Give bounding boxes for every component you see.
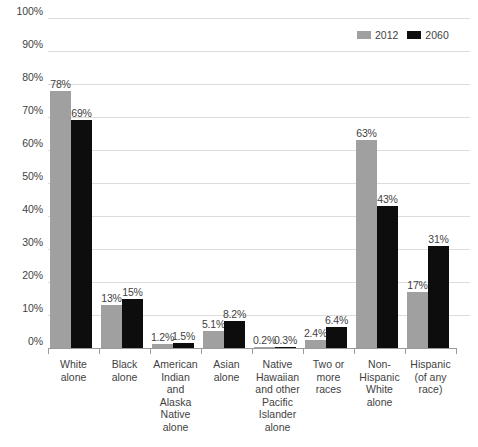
bar-value-label: 6.4% [320, 314, 354, 326]
bar-group: 17%31% [405, 18, 456, 348]
y-axis-tick-label: 10% [0, 302, 43, 314]
bar-2012 [254, 347, 275, 348]
x-axis-tick [201, 348, 202, 354]
y-axis-tick-label: 100% [0, 5, 43, 17]
bar-2012 [305, 340, 326, 348]
x-axis-category-label: Two or more races [303, 358, 354, 396]
bar-2060 [122, 299, 143, 349]
bar-group: 1.2%1.5% [150, 18, 201, 348]
x-axis-category-label: Asian alone [201, 358, 252, 383]
bar-value-label: 69% [65, 107, 99, 119]
bar-group: 63%43% [354, 18, 405, 348]
bar-value-label: 43% [371, 193, 405, 205]
bar-2012 [356, 140, 377, 348]
bar-2012 [407, 292, 428, 348]
bar-value-label: 8.2% [218, 308, 252, 320]
bar-2060 [173, 343, 194, 348]
bar-2012 [152, 344, 173, 348]
bar-group: 2.4%6.4% [303, 18, 354, 348]
x-axis-category-label: American Indian and Alaska Native alone [150, 358, 201, 434]
x-axis-category-label: White alone [48, 358, 99, 383]
y-axis-tick-label: 40% [0, 203, 43, 215]
legend-swatch-2012 [357, 31, 371, 39]
bar-value-label: 63% [350, 127, 384, 139]
x-axis-tick [252, 348, 253, 354]
bar-group: 78%69% [48, 18, 99, 348]
bar-2012 [50, 91, 71, 348]
y-axis-tick-label: 90% [0, 38, 43, 50]
bar-2012 [101, 305, 122, 348]
bar-group: 13%15% [99, 18, 150, 348]
x-axis-category-label: Hispanic (of any race) [405, 358, 456, 396]
legend-label-2012: 2012 [375, 29, 398, 41]
bar-chart: 0%10%20%30%40%50%60%70%80%90%100% 78%69%… [0, 0, 478, 447]
bar-2012 [203, 331, 224, 348]
bar-groups: 78%69%13%15%1.2%1.5%5.1%8.2%0.2%0.3%2.4%… [48, 18, 456, 348]
y-axis-tick-label: 20% [0, 269, 43, 281]
legend-item-2012: 2012 [357, 29, 398, 41]
x-axis-tick [405, 348, 406, 354]
y-axis-tick-label: 60% [0, 137, 43, 149]
x-axis-tick [150, 348, 151, 354]
bar-2060 [275, 347, 296, 348]
x-axis-category-label: Native Hawaiian and other Pacific Island… [252, 358, 303, 434]
bar-2060 [377, 206, 398, 348]
x-axis-tick [456, 348, 457, 354]
bar-value-label: 31% [422, 233, 456, 245]
bar-2060 [326, 327, 347, 348]
bar-2060 [224, 321, 245, 348]
bar-group: 0.2%0.3% [252, 18, 303, 348]
y-axis-tick-label: 50% [0, 170, 43, 182]
x-axis-category-label: Black alone [99, 358, 150, 383]
x-axis-tick [48, 348, 49, 354]
y-axis-tick-label: 0% [0, 335, 43, 347]
y-axis-tick-label: 70% [0, 104, 43, 116]
x-axis-tick [354, 348, 355, 354]
bar-value-label: 78% [44, 78, 78, 90]
bar-value-label: 1.5% [167, 330, 201, 342]
bar-value-label: 0.3% [269, 334, 303, 346]
x-axis-tick [99, 348, 100, 354]
legend-item-2060: 2060 [407, 29, 448, 41]
y-axis-tick-label: 80% [0, 71, 43, 83]
x-axis-tick [303, 348, 304, 354]
legend: 2012 2060 [357, 29, 449, 41]
y-axis-tick-label: 30% [0, 236, 43, 248]
bar-value-label: 15% [116, 286, 150, 298]
legend-swatch-2060 [407, 31, 421, 39]
bar-2060 [428, 246, 449, 348]
bar-2060 [71, 120, 92, 348]
legend-label-2060: 2060 [425, 29, 448, 41]
x-axis-category-label: Non- Hispanic White alone [354, 358, 405, 408]
bar-group: 5.1%8.2% [201, 18, 252, 348]
